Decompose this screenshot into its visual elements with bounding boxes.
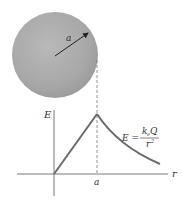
formula-denominator-exp: 2 [150,138,154,144]
y-axis-label: E [43,109,52,120]
formula-numerator-q: Q [150,126,158,136]
field-diagram: a E r a E = k e Q r 2 [0,0,183,200]
x-axis-label: r [172,168,178,179]
formula-lhs: E = [121,133,139,143]
x-tick-label-a: a [94,177,99,187]
radius-label: a [66,33,71,43]
field-curve-inside [54,114,97,174]
charged-sphere [12,12,98,98]
